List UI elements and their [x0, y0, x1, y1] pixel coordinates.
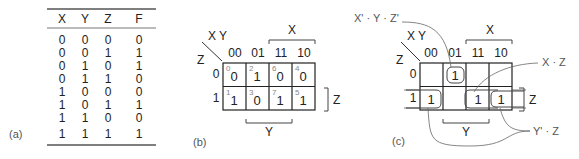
table-cell: 1: [136, 127, 143, 141]
table-cell: 0: [82, 85, 89, 99]
kmap-cell: 5 1: [295, 88, 307, 108]
figure-canvas: X Y Z F 0 0 0 0 0 0 1 1 0 1 0 1 0 1 1 0: [0, 0, 579, 159]
cell-value: 1: [276, 93, 283, 108]
col-header: 11: [472, 46, 485, 60]
table-cell: 0: [82, 98, 89, 112]
kmap-cell: 1 1: [226, 88, 238, 108]
kmap-b: X Y Z X 00 01 11 10 0 1 0 0 2 1 6 0: [193, 23, 340, 148]
cell-value: 0: [230, 69, 237, 84]
column-header-z: Z: [104, 12, 111, 26]
table-cell: 0: [82, 46, 89, 60]
col-header: 00: [228, 46, 242, 60]
x-bracket-label: X: [288, 23, 296, 37]
column-header-f: F: [135, 12, 142, 26]
table-cell: 1: [82, 111, 89, 125]
table-cell: 1: [59, 111, 66, 125]
table-cell: 0: [136, 85, 143, 99]
table-cell: 0: [59, 72, 66, 86]
table-cell: 1: [136, 59, 143, 73]
table-cell: 0: [105, 33, 112, 47]
table-row: 1 1 0 0: [59, 111, 143, 125]
col-header: 10: [494, 46, 508, 60]
table-row: 0 1 0 1: [59, 59, 143, 73]
cell-value: 1: [451, 68, 458, 83]
group-loop-yp-z-right: [491, 91, 524, 107]
annotation-ypz: Y' · Z: [533, 125, 559, 137]
row-header: 1: [213, 91, 220, 105]
table-cell: 1: [59, 127, 66, 141]
x-bracket: [466, 40, 512, 44]
table-row: 1 0 0 0: [59, 85, 143, 99]
annotation-xpyzp: X' · Y · Z': [354, 12, 399, 24]
table-cell: 1: [105, 72, 112, 86]
x-bracket-label: X: [486, 23, 494, 37]
corner-label-z: Z: [396, 53, 403, 67]
corner-diagonal: [202, 42, 222, 61]
kmap-cell: 4 0: [295, 64, 307, 84]
table-cell: 0: [82, 33, 89, 47]
table-cell: 1: [59, 85, 66, 99]
table-cell: 1: [105, 46, 112, 60]
truth-table: X Y Z F 0 0 0 0 0 0 1 1 0 1 0 1 0 1 1 0: [9, 9, 156, 145]
cell-value: 0: [276, 69, 283, 84]
caption-c: (c): [392, 135, 405, 147]
table-cell: 0: [105, 59, 112, 73]
row-header: 1: [410, 91, 417, 105]
leader-line: [474, 63, 538, 92]
column-header-x: X: [58, 12, 66, 26]
cell-value: 0: [299, 69, 306, 84]
table-row: 1 1 1 1: [59, 127, 143, 141]
y-bracket-label: Y: [265, 125, 273, 139]
cell-value: 1: [427, 92, 434, 107]
table-cell: 0: [136, 72, 143, 86]
column-header-y: Y: [81, 12, 89, 26]
table-row: 1 0 1 1: [59, 98, 143, 112]
table-cell: 1: [136, 46, 143, 60]
y-bracket-label: Y: [462, 125, 470, 139]
table-cell: 0: [59, 46, 66, 60]
table-cell: 0: [136, 111, 143, 125]
cell-value: 1: [253, 69, 260, 84]
kmap-cell: 2 1: [249, 64, 261, 84]
table-cell: 1: [105, 127, 112, 141]
cell-value: 1: [230, 93, 237, 108]
kmap-cell: 6 0: [272, 64, 284, 84]
leader-line: [428, 108, 530, 146]
cell-value: 0: [253, 93, 260, 108]
table-cell: 1: [105, 98, 112, 112]
table-cell: 1: [82, 72, 89, 86]
cell-value: 1: [497, 92, 504, 107]
caption-a: (a): [9, 128, 22, 140]
table-row: 0 0 0 0: [59, 33, 143, 47]
z-bracket: [324, 88, 328, 111]
z-bracket-label: Z: [333, 93, 340, 107]
table-cell: 1: [82, 127, 89, 141]
row-header: 0: [410, 67, 417, 81]
kmap-cell: 7 1: [272, 88, 284, 108]
y-bracket: [443, 119, 489, 123]
kmap-cell: 0 0: [226, 64, 238, 84]
table-cell: 0: [136, 33, 143, 47]
col-header: 01: [251, 46, 265, 60]
table-row: 0 0 1 1: [59, 46, 143, 60]
kmap-cell: 3 0: [249, 88, 261, 108]
table-cell: 1: [59, 98, 66, 112]
table-cell: 1: [82, 59, 89, 73]
col-header: 01: [448, 46, 462, 60]
corner-label-xy: X Y: [208, 29, 227, 43]
table-cell: 0: [59, 33, 66, 47]
corner-diagonal: [401, 42, 420, 61]
annotation-xz: X · Z: [542, 56, 566, 68]
table-cell: 0: [105, 111, 112, 125]
table-row: 0 1 1 0: [59, 72, 143, 86]
y-bracket: [246, 119, 292, 123]
cell-value: 1: [299, 93, 306, 108]
col-header: 11: [275, 46, 288, 60]
table-cell: 0: [105, 85, 112, 99]
caption-b: (b): [193, 136, 206, 148]
kmap-c: X Y Z X 00 01 11 10 0 1 1 1 1 1 Z: [354, 12, 566, 147]
table-cell: 0: [59, 59, 66, 73]
x-bracket: [269, 40, 315, 44]
leader-line: [500, 108, 530, 131]
row-header: 0: [213, 67, 220, 81]
